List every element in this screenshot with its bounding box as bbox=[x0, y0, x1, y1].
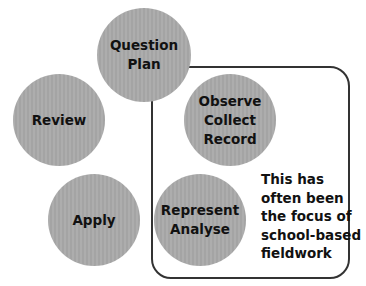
focus-note-line: the focus of bbox=[261, 207, 361, 226]
stage-label: Review bbox=[32, 111, 87, 130]
stage-label: Observe Collect Record bbox=[199, 92, 262, 149]
stage-question-plan: Question Plan bbox=[97, 8, 191, 102]
stage-represent-analyse: Represent Analyse bbox=[154, 174, 246, 266]
focus-note: This has often been the focus of school-… bbox=[261, 170, 361, 263]
focus-note-line: often been bbox=[261, 189, 361, 208]
fieldwork-cycle-diagram: Question Plan Review Observe Collect Rec… bbox=[0, 0, 366, 286]
stage-apply: Apply bbox=[48, 174, 140, 266]
stage-label: Question Plan bbox=[110, 36, 178, 74]
stage-review: Review bbox=[13, 74, 105, 166]
focus-note-line: fieldwork bbox=[261, 244, 361, 263]
focus-note-line: school-based bbox=[261, 226, 361, 245]
stage-label: Represent Analyse bbox=[161, 201, 239, 239]
focus-note-line: This has bbox=[261, 170, 361, 189]
stage-label: Apply bbox=[72, 211, 115, 230]
stage-observe-collect-record: Observe Collect Record bbox=[184, 74, 276, 166]
